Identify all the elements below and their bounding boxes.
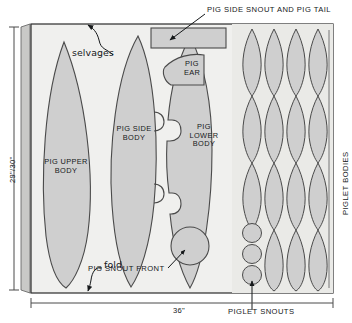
- piece-label-pig-ear: PIG EAR: [175, 60, 209, 77]
- piglet-snout-circle: [243, 245, 262, 264]
- piece-pig-side-snout-and-pig-tail: [151, 28, 226, 48]
- piece-label-pig-lower-body: PIG LOWER BODY: [182, 123, 226, 149]
- piece-label-pig-lower-body-line3: BODY: [182, 140, 226, 149]
- pattern-layout-diagram: PIG SIDE SNOUT AND PIG TAIL selvages fol…: [0, 0, 352, 323]
- callout-pig-snout-front: PIG SNOUT FRONT: [88, 265, 165, 274]
- piglet-snouts-group: [243, 224, 262, 285]
- fabric-selvage-strip: [21, 24, 30, 293]
- dimension-label-height: 29"/30": [9, 157, 18, 184]
- callout-pig-side-snout-and-pig-tail: PIG SIDE SNOUT AND PIG TAIL: [207, 6, 331, 15]
- piglet-snout-circle: [243, 224, 262, 243]
- piece-label-pig-upper-body-line2: BODY: [40, 167, 92, 176]
- piece-label-pig-ear-line2: EAR: [175, 69, 209, 78]
- dimension-label-width: 36": [173, 307, 185, 316]
- piece-label-pig-side-body-line2: BODY: [108, 134, 160, 143]
- label-selvages: selvages: [72, 48, 114, 59]
- callout-piglet-bodies: PIGLET BODIES: [342, 151, 351, 215]
- piece-label-pig-upper-body: PIG UPPER BODY: [40, 158, 92, 175]
- callout-piglet-snouts: PIGLET SNOUTS: [228, 308, 294, 317]
- piece-label-pig-side-body: PIG SIDE BODY: [108, 125, 160, 142]
